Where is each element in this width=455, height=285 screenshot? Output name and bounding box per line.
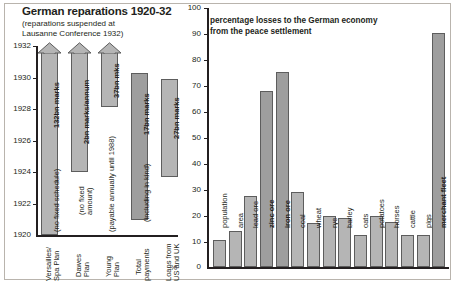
right-x-axis [207,267,449,269]
right-y-tick [204,112,207,113]
right-y-tick [204,34,207,35]
right-y-tick [204,164,207,165]
right-y-ticklabel-20: 20 [178,212,201,220]
right-bar-cattle [401,235,414,267]
right-bar-coal [291,192,304,267]
right-xlabel-oats: oats [362,214,370,228]
right-xlabel-cattle: cattle [409,210,417,228]
left-y-ticklabel-1922: 1922 [2,200,31,208]
right-y-ticklabel-70: 70 [178,82,201,90]
page-title: German reparations 1920-32 [22,5,182,18]
right-y-tick [204,190,207,191]
right-y-ticklabel-10: 10 [178,238,201,246]
chart-subtitle-line-2: Lausanne Conference 1932) [22,29,182,39]
right-y-axis-title: % [170,263,177,272]
chart-subtitle: (reparations suspended at Lausanne Confe… [22,19,182,38]
left-bar-amount-total-payments: 17bn marks [143,93,151,135]
right-y-tick [204,8,207,9]
left-y-tick [33,204,36,205]
left-y-tick [33,109,36,110]
right-bar-population [213,240,226,267]
right-xlabel-horses: horses [393,205,401,228]
right-bar-iron-ore [276,72,289,267]
left-xlabel-young-line-2: Plan [113,262,121,277]
right-chart-panel: percentage losses to the German economy … [182,0,455,285]
right-xlabel-zinc-ore: zinc ore [268,200,276,228]
left-bar-arrow-dawes [67,42,92,54]
left-y-ticklabel-1924: 1924 [2,168,31,176]
left-y-ticklabel-1926: 1926 [2,137,31,145]
right-y-ticklabel-80: 80 [178,56,201,64]
left-chart-title-block: German reparations 1920-32 (reparations … [22,5,182,38]
figure-root: German reparations 1920-32 (reparations … [0,0,455,285]
right-bar-area [229,231,242,267]
right-xlabel-wheat: wheat [315,208,323,228]
left-bar-amount-versailles: 132bn marks [53,82,61,128]
chart-subtitle-line-1: (reparations suspended at [22,19,182,29]
left-bar-arrow-versailles [37,42,62,54]
left-xlabel-dawes-line-2: Plan [83,262,91,277]
left-bar-arrow-young [97,42,122,54]
right-y-ticklabel-30: 30 [178,186,201,194]
right-xlabel-merchant-fleet: merchant fleet [440,177,448,228]
right-bar-oats [354,235,367,267]
right-xlabel-barley: barley [346,208,354,228]
left-bar-note-dawes-line-2: amount) [86,187,94,215]
right-y-ticklabel-90: 90 [178,30,201,38]
right-y-ticklabel-0: 0 [178,263,201,271]
right-y-ticklabel-60: 60 [178,108,201,116]
left-bar-note-young: (payable annually until 1988) [108,136,116,232]
right-bar-zinc-ore [260,91,273,267]
left-bar-note-total-payments: (including in kind) [143,164,151,222]
left-chart-panel: German reparations 1920-32 (reparations … [0,0,182,285]
right-bar-horses [385,222,398,267]
right-xlabel-coal: coal [299,214,307,228]
left-y-ticklabel-1932: 1932 [2,42,31,50]
right-xlabel-population: population [221,193,229,228]
right-y-tick [204,138,207,139]
left-xlabel-total-line-2: payments [143,248,151,281]
right-y-tick [204,86,207,87]
left-x-axis [36,235,178,237]
left-y-axis [36,46,38,236]
right-y-axis [207,8,209,268]
left-y-ticklabel-1930: 1930 [2,74,31,82]
left-y-tick [33,172,36,173]
left-y-tick [33,46,36,47]
right-y-tick [204,242,207,243]
left-bar-amount-dawes: 2bn marks/annum [83,80,91,144]
right-y-ticklabel-40: 40 [178,160,201,168]
right-bar-pigs [417,235,430,267]
left-bar-note-versailles: (no fixed schedule) [53,169,61,232]
left-bar-amount-loans: 27bn marks [173,97,181,139]
right-chart-note: percentage losses to the German economy … [210,16,377,37]
right-y-tick [204,216,207,217]
right-xlabel-lead-ore: lead ore [252,201,260,228]
left-y-ticklabel-1928: 1928 [2,105,31,113]
right-bar-merchant-fleet [432,33,445,267]
left-y-ticklabel-1920: 1920 [2,231,31,239]
right-y-ticklabel-100: 100 [178,4,201,12]
right-y-ticklabel-50: 50 [178,134,201,142]
right-bar-wheat [307,223,320,267]
left-bar-amount-young: 37bn mks [113,63,121,98]
left-xlabel-versailles-line-2: Spa Plan [53,251,61,281]
right-y-tick [204,60,207,61]
left-y-tick [33,78,36,79]
left-y-tick [33,141,36,142]
right-chart-note-line-1: percentage losses to the German economy [210,16,377,27]
right-chart-note-line-2: from the peace settlement [210,27,377,38]
